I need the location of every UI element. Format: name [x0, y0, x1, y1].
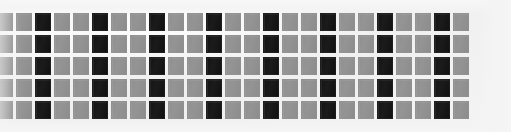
grid-cell-gray	[225, 101, 241, 119]
square-grid	[0, 0, 511, 132]
pattern-canvas	[0, 0, 511, 132]
grid-cell-gray	[111, 101, 127, 119]
grid-cell-gray	[16, 101, 32, 119]
grid-cell-dark	[377, 35, 393, 53]
grid-cell-gray	[301, 101, 317, 119]
grid-cell-gray	[396, 101, 412, 119]
grid-cell-gray	[187, 57, 203, 75]
grid-cell-gray	[111, 57, 127, 75]
grid-cell-dark	[149, 13, 165, 31]
grid-cell-dark	[320, 13, 336, 31]
grid-cell-gray	[0, 79, 13, 97]
grid-cell-gray	[111, 79, 127, 97]
grid-cell-dark	[149, 79, 165, 97]
grid-cell-dark	[92, 35, 108, 53]
grid-cell-gray	[301, 79, 317, 97]
grid-cell-gray	[282, 79, 298, 97]
grid-cell-gray	[54, 35, 70, 53]
grid-cell-gray	[301, 57, 317, 75]
grid-cell-gray	[73, 35, 89, 53]
grid-cell-gray	[282, 101, 298, 119]
grid-cell-gray	[415, 57, 431, 75]
grid-cell-dark	[434, 13, 450, 31]
grid-cell-dark	[263, 79, 279, 97]
grid-cell-dark	[35, 57, 51, 75]
grid-cell-gray	[339, 35, 355, 53]
grid-cell-gray	[301, 35, 317, 53]
grid-cell-gray	[225, 79, 241, 97]
grid-cell-dark	[206, 13, 222, 31]
grid-cell-dark	[263, 57, 279, 75]
grid-cell-gray	[358, 13, 374, 31]
grid-cell-gray	[244, 79, 260, 97]
grid-cell-gray	[168, 35, 184, 53]
grid-row	[0, 13, 472, 31]
grid-cell-dark	[35, 35, 51, 53]
grid-cell-gray	[187, 35, 203, 53]
grid-cell-dark	[206, 35, 222, 53]
grid-cell-gray	[73, 57, 89, 75]
grid-cell-gray	[453, 13, 469, 31]
grid-cell-gray	[415, 101, 431, 119]
grid-cell-dark	[35, 101, 51, 119]
grid-cell-gray	[16, 13, 32, 31]
grid-cell-gray	[225, 57, 241, 75]
grid-cell-gray	[73, 101, 89, 119]
grid-cell-gray	[0, 101, 13, 119]
grid-cell-gray	[339, 79, 355, 97]
grid-cell-gray	[358, 79, 374, 97]
grid-cell-gray	[0, 57, 13, 75]
grid-cell-gray	[111, 35, 127, 53]
grid-cell-gray	[130, 101, 146, 119]
grid-cell-dark	[320, 79, 336, 97]
grid-cell-gray	[396, 13, 412, 31]
grid-cell-gray	[301, 13, 317, 31]
grid-cell-gray	[339, 57, 355, 75]
grid-cell-dark	[92, 57, 108, 75]
grid-cell-dark	[434, 101, 450, 119]
grid-cell-gray	[415, 79, 431, 97]
grid-cell-gray	[168, 13, 184, 31]
grid-cell-gray	[282, 35, 298, 53]
grid-cell-gray	[168, 79, 184, 97]
grid-cell-dark	[263, 13, 279, 31]
grid-cell-gray	[187, 13, 203, 31]
grid-cell-gray	[415, 13, 431, 31]
grid-row	[0, 101, 472, 119]
grid-cell-gray	[54, 57, 70, 75]
grid-cell-gray	[130, 35, 146, 53]
grid-cell-dark	[92, 101, 108, 119]
grid-cell-dark	[377, 79, 393, 97]
grid-cell-gray	[339, 13, 355, 31]
grid-cell-gray	[73, 13, 89, 31]
grid-row	[0, 35, 472, 53]
grid-cell-gray	[358, 35, 374, 53]
grid-cell-dark	[434, 79, 450, 97]
grid-cell-gray	[244, 101, 260, 119]
grid-cell-gray	[244, 35, 260, 53]
grid-cell-gray	[396, 35, 412, 53]
grid-cell-gray	[358, 101, 374, 119]
grid-cell-dark	[320, 101, 336, 119]
grid-cell-gray	[339, 101, 355, 119]
grid-cell-dark	[263, 101, 279, 119]
grid-cell-gray	[168, 101, 184, 119]
grid-cell-gray	[130, 13, 146, 31]
grid-cell-dark	[92, 79, 108, 97]
grid-cell-gray	[168, 57, 184, 75]
grid-cell-dark	[206, 101, 222, 119]
grid-cell-dark	[434, 57, 450, 75]
grid-cell-gray	[244, 57, 260, 75]
grid-cell-gray	[282, 57, 298, 75]
grid-cell-dark	[149, 101, 165, 119]
grid-cell-dark	[377, 57, 393, 75]
grid-cell-dark	[206, 57, 222, 75]
grid-cell-dark	[377, 101, 393, 119]
grid-cell-dark	[434, 35, 450, 53]
grid-cell-gray	[130, 57, 146, 75]
grid-cell-dark	[35, 79, 51, 97]
grid-cell-dark	[206, 79, 222, 97]
grid-cell-gray	[225, 13, 241, 31]
grid-cell-gray	[453, 57, 469, 75]
grid-cell-gray	[187, 101, 203, 119]
